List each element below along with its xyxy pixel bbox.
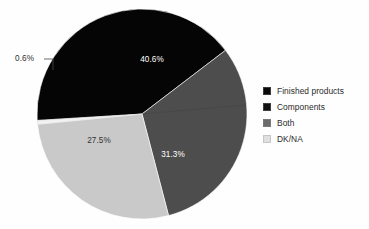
slice-value-label-both: 27.5% xyxy=(87,136,111,145)
slice-value-label-finished-products: 40.6% xyxy=(140,55,164,64)
slice-value-label-components: 31.3% xyxy=(161,150,185,159)
legend-swatch-icon xyxy=(263,119,271,127)
pie-chart: 40.6% 31.3% 27.5% 0.6% Finished products… xyxy=(0,0,369,229)
legend-swatch-icon xyxy=(263,103,271,111)
legend-swatch-icon xyxy=(263,87,271,95)
legend-item-label: DK/NA xyxy=(277,134,303,144)
legend-item-finished-products[interactable]: Finished products xyxy=(263,83,367,99)
legend-item-components[interactable]: Components xyxy=(263,99,367,115)
legend-item-both[interactable]: Both xyxy=(263,115,367,131)
legend-item-label: Finished products xyxy=(277,86,344,96)
chart-legend: Finished products Components Both DK/NA xyxy=(263,83,367,147)
slice-value-label-dk-na: 0.6% xyxy=(15,54,34,63)
legend-swatch-icon xyxy=(263,135,271,143)
legend-item-label: Both xyxy=(277,118,294,128)
legend-item-label: Components xyxy=(277,102,325,112)
legend-item-dk-na[interactable]: DK/NA xyxy=(263,131,367,147)
